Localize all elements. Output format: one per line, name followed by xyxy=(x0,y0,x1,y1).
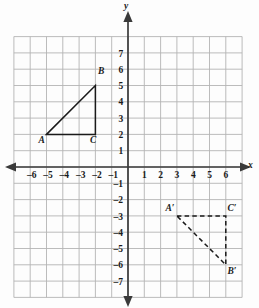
y-tick-label-7: 7 xyxy=(119,50,124,60)
vertex-label-b: B xyxy=(98,67,104,77)
x-tick-label--6: –6 xyxy=(27,171,37,181)
x-tick-label-4: 4 xyxy=(191,171,196,181)
y-tick-label-6: 6 xyxy=(119,66,124,76)
x-tick-label-5: 5 xyxy=(207,171,212,181)
y-tick-label--1: –1 xyxy=(114,180,124,190)
y-tick-label-3: 3 xyxy=(119,115,124,125)
vertex-label-c-prime: C′ xyxy=(228,204,237,214)
y-tick-label--3: –3 xyxy=(114,213,124,223)
y-tick-label--6: –6 xyxy=(114,261,124,271)
vertex-label-c: C xyxy=(90,136,96,146)
y-tick-label-4: 4 xyxy=(119,98,124,108)
y-tick-label-5: 5 xyxy=(119,82,124,92)
x-axis-name: x xyxy=(248,161,253,171)
vertex-label-a: A xyxy=(39,136,45,146)
vertex-label-b-prime: B′ xyxy=(228,267,237,277)
y-tick-label--2: –2 xyxy=(114,196,124,206)
coordinate-plane-svg xyxy=(0,0,259,308)
coordinate-plane-figure: –6 –5 –4 –3 –2 –1 1 2 3 4 5 6 7 6 5 4 3 … xyxy=(0,0,259,308)
y-tick-label--4: –4 xyxy=(114,229,124,239)
x-tick-label-2: 2 xyxy=(158,171,163,181)
x-tick-label-1: 1 xyxy=(142,171,147,181)
vertex-label-a-prime: A′ xyxy=(166,204,175,214)
x-tick-label--2: –2 xyxy=(92,171,102,181)
y-axis-name: y xyxy=(124,2,128,12)
x-tick-label-3: 3 xyxy=(175,171,180,181)
y-tick-label-1: 1 xyxy=(119,147,124,157)
y-tick-label--7: –7 xyxy=(114,278,124,288)
y-tick-label-2: 2 xyxy=(119,131,124,141)
triangle-a-prime-b-prime-c-prime xyxy=(177,216,226,265)
y-tick-label--5: –5 xyxy=(114,245,124,255)
x-tick-label--5: –5 xyxy=(43,171,53,181)
x-tick-label--3: –3 xyxy=(76,171,86,181)
x-tick-label--4: –4 xyxy=(60,171,70,181)
x-tick-label-6: 6 xyxy=(224,171,229,181)
y-axis xyxy=(123,11,132,307)
triangle-abc xyxy=(47,86,96,135)
